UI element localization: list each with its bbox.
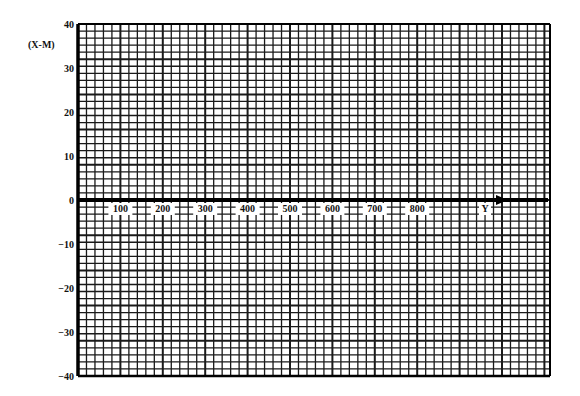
y-tick-label: 0 xyxy=(69,195,74,206)
x-tick-label: 800 xyxy=(410,203,425,214)
x-tick-label: 700 xyxy=(367,203,382,214)
x-tick-label: 600 xyxy=(325,203,340,214)
x-tick-label: 100 xyxy=(113,203,128,214)
y-tick-label: 30 xyxy=(64,63,74,74)
x-tick-label: 400 xyxy=(240,203,255,214)
y-axis-label: (X-M) xyxy=(28,39,55,51)
axes xyxy=(78,24,550,376)
y-tick-label: −10 xyxy=(58,239,74,250)
x-tick-label: 300 xyxy=(198,203,213,214)
x-axis-label: Y xyxy=(481,203,489,214)
y-tick-label: −30 xyxy=(58,327,74,338)
x-tick-label: 500 xyxy=(283,203,298,214)
y-tick-label: 40 xyxy=(64,19,74,30)
x-tick-label: 200 xyxy=(155,203,170,214)
graph-paper-chart: 403020100−10−20−30−40 100200300400500600… xyxy=(0,0,580,396)
y-tick-label: −40 xyxy=(58,371,74,382)
y-tick-labels: 403020100−10−20−30−40 xyxy=(58,19,74,382)
y-tick-label: 10 xyxy=(64,151,74,162)
y-tick-label: 20 xyxy=(64,107,74,118)
y-tick-label: −20 xyxy=(58,283,74,294)
